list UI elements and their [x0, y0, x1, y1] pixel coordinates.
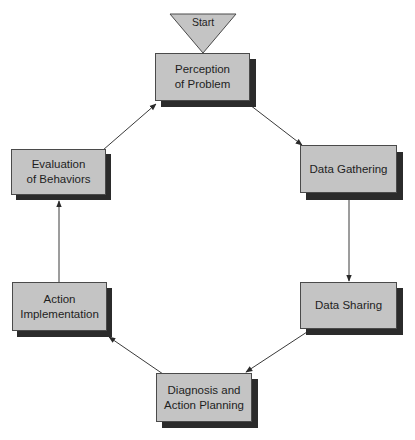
arrow-perception-to-data-gathering [250, 105, 302, 145]
cycle-diagram: Start Perception of Problem Data Gatheri… [0, 0, 415, 440]
node-label: Action Implementation [20, 292, 99, 322]
arrow-data-sharing-to-diagnosis [246, 332, 307, 372]
node-box: Data Sharing [300, 282, 397, 329]
node-box: Data Gathering [300, 145, 397, 193]
node-label: Diagnosis and Action Planning [164, 383, 244, 413]
start-label: Start [170, 16, 236, 28]
arrow-diagnosis-to-action-implementation [109, 337, 163, 374]
node-label: Data Gathering [310, 162, 388, 177]
node-box: Action Implementation [12, 282, 107, 331]
node-box: Evaluation of Behaviors [11, 149, 106, 195]
node-label: Data Sharing [315, 298, 382, 313]
arrow-evaluation-to-perception [103, 104, 156, 150]
node-label: Perception of Problem [175, 62, 231, 92]
node-label: Evaluation of Behaviors [27, 157, 91, 187]
node-box: Perception of Problem [155, 53, 250, 101]
node-box: Diagnosis and Action Planning [156, 373, 252, 422]
